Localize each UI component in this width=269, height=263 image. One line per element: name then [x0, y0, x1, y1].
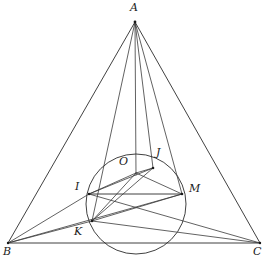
- point-label-J: J: [156, 147, 160, 158]
- vertex-dot-M: [181, 193, 184, 196]
- point-label-O: O: [119, 156, 128, 167]
- cevian-A-M: [135, 22, 182, 194]
- point-label-A: A: [130, 2, 138, 13]
- point-label-B: B: [3, 246, 11, 257]
- geometry-canvas: [0, 0, 269, 263]
- vertex-dot-B: [7, 242, 9, 244]
- vertex-dot-J: [152, 167, 155, 170]
- line-C-K: [92, 221, 260, 243]
- cevian-A-O: [135, 22, 136, 175]
- geometry-figure: A B C O J I M K: [0, 0, 269, 263]
- point-label-I: I: [75, 181, 79, 192]
- cevian-A-K: [92, 22, 135, 221]
- radius-O-M: [136, 173, 182, 194]
- point-label-C: C: [253, 246, 261, 257]
- vertex-dot-A: [134, 21, 137, 24]
- cevian-A-J: [135, 22, 153, 168]
- radius-O-I: [89, 173, 136, 194]
- vertex-dot-I: [88, 193, 91, 196]
- vertex-dot-C: [259, 242, 261, 244]
- point-label-M: M: [189, 183, 200, 194]
- chord-J-K: [92, 168, 153, 221]
- side-AC: [135, 22, 260, 243]
- point-label-K: K: [74, 226, 82, 237]
- vertex-dot-K: [91, 220, 94, 223]
- side-AB: [8, 22, 135, 243]
